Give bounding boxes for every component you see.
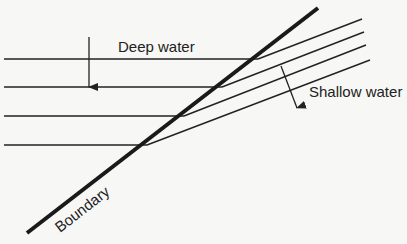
shallow-water-label: Shallow water bbox=[309, 83, 402, 100]
wavefront-shallow-3 bbox=[184, 45, 366, 116]
refraction-diagram: Deep water Shallow water Boundary bbox=[0, 0, 407, 244]
deep-water-label: Deep water bbox=[118, 38, 195, 55]
